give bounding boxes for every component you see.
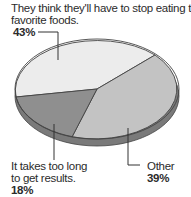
label-foods-pct: 43% bbox=[13, 26, 35, 38]
label-other: Other bbox=[147, 160, 174, 172]
label-results-line1: It takes too long bbox=[11, 160, 87, 172]
label-results-pct: 18% bbox=[11, 184, 33, 196]
label-results-line2: to get results. bbox=[11, 172, 76, 184]
label-foods-line2: favorite foods. bbox=[11, 14, 79, 26]
label-foods-line1: They think they'll have to stop eating t… bbox=[11, 2, 191, 14]
label-other-pct: 39% bbox=[147, 172, 169, 184]
